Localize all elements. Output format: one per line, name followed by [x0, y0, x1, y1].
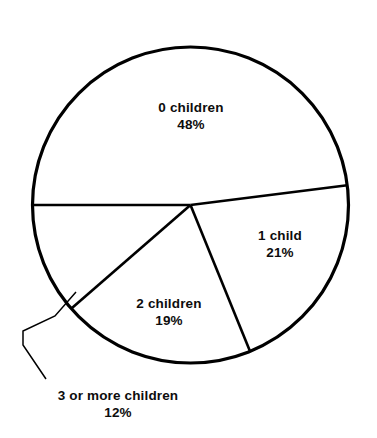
- pie-slice-label-0children-name: 0 children: [158, 100, 223, 115]
- pie-slice-label-1child: 1 child 21%: [232, 228, 328, 261]
- pie-chart-figure: of Children Under 18 Years, 19 0 childre…: [0, 0, 377, 438]
- pie-chart-graphic: [0, 0, 377, 438]
- pie-slice-label-3plus-name: 3 or more children: [58, 388, 178, 403]
- pie-slice-label-1child-value: 21%: [232, 245, 328, 262]
- pie-slice-label-0children: 0 children 48%: [110, 100, 272, 133]
- pie-slice-label-2children-name: 2 children: [136, 296, 201, 311]
- pie-slice-label-3plus-value: 12%: [0, 405, 236, 422]
- pie-slice-label-3plus: 3 or more children 12%: [0, 388, 236, 421]
- pie-slice-label-2children-value: 19%: [104, 313, 234, 330]
- pie-slice-label-0children-value: 48%: [110, 117, 272, 134]
- pie-slice-label-1child-name: 1 child: [258, 228, 302, 243]
- pie-slice-label-2children: 2 children 19%: [104, 296, 234, 329]
